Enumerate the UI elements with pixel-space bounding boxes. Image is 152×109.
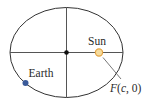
sun-label: Sun [88, 35, 106, 47]
focus-label-rest: , 0) [126, 82, 142, 95]
ellipse-orbit-diagram: Sun Earth F(c, 0) [0, 0, 152, 109]
earth-label: Earth [29, 67, 54, 79]
focus-leader-line [103, 58, 121, 80]
sun-icon [95, 49, 102, 56]
earth-icon [23, 80, 29, 86]
focus-label: F(c, 0) [109, 82, 141, 95]
center-point [64, 50, 69, 55]
